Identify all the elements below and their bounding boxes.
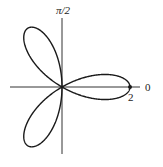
polar-rose-plot: π/2 0 2 — [0, 0, 163, 167]
label-two: 2 — [128, 91, 134, 103]
label-zero: 0 — [145, 81, 151, 93]
label-pi-over-2: π/2 — [56, 4, 71, 16]
point-r2 — [128, 85, 132, 89]
